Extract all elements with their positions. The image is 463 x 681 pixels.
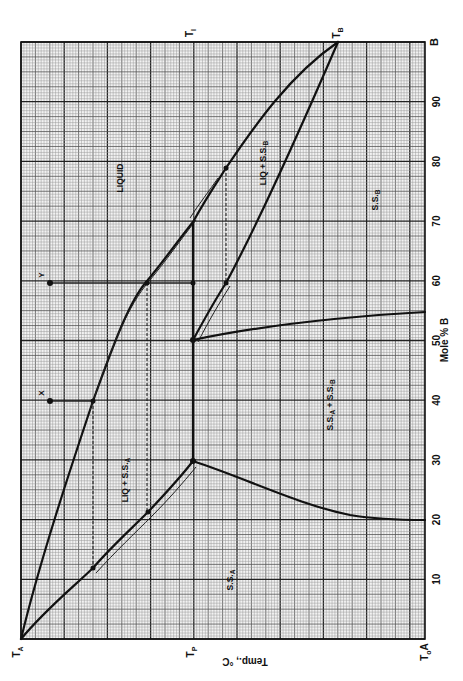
point-x-dot bbox=[47, 398, 53, 404]
solidus-21-dot bbox=[146, 510, 151, 515]
node-50-dot bbox=[190, 337, 196, 343]
mole-tick-20: 20 bbox=[431, 514, 442, 526]
mole-tick-10: 10 bbox=[431, 573, 442, 585]
point-y-label: Y bbox=[37, 272, 46, 278]
point-y-dot bbox=[47, 280, 53, 286]
solidus-b-60-dot bbox=[224, 281, 229, 286]
mole-tick-80: 80 bbox=[431, 155, 442, 167]
mole-tick-60: 60 bbox=[431, 275, 442, 287]
region-ssa-ssb-label: S.S.A + S.S.B bbox=[325, 379, 336, 431]
liquidus-40-dot bbox=[91, 399, 96, 404]
solidus-12-dot bbox=[91, 566, 96, 571]
phase-diagram: 102030405060708090 Mole % B B TA TP ToA … bbox=[0, 0, 463, 681]
mole-tick-40: 40 bbox=[431, 394, 442, 406]
region-liq-ssa-label: LIQ + S.S.A bbox=[120, 457, 131, 502]
temp-axis-label: Temp., °C bbox=[222, 656, 267, 667]
mole-axis-label: Mole % B bbox=[439, 318, 450, 362]
region-liq-ssb-label: LIQ + S.S.B bbox=[258, 140, 269, 185]
tick-b-label: B bbox=[428, 38, 440, 46]
point-x-label: X bbox=[37, 390, 46, 396]
mole-tick-70: 70 bbox=[431, 215, 442, 227]
region-liquid-label: LIQUID bbox=[115, 164, 125, 193]
mole-tick-30: 30 bbox=[431, 454, 442, 466]
liquidus-79-dot bbox=[224, 166, 229, 171]
graph-paper-grid bbox=[21, 42, 425, 639]
liquidus-60-dot bbox=[145, 281, 150, 286]
mole-tick-90: 90 bbox=[431, 96, 442, 108]
peritectic-60-dot bbox=[191, 281, 196, 286]
node-30-dot bbox=[190, 458, 196, 464]
